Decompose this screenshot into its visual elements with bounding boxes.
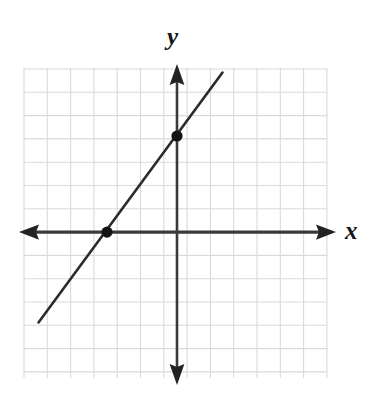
x-axis-label: x bbox=[345, 218, 358, 243]
y-axis-label: y bbox=[167, 24, 178, 49]
point-y-intercept bbox=[171, 130, 182, 141]
coordinate-plane-figure bbox=[0, 0, 384, 403]
point-x-intercept bbox=[101, 227, 112, 238]
